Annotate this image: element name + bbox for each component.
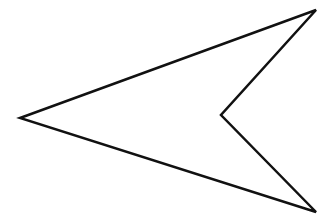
arrowhead-shape — [0, 0, 336, 218]
arrowhead-outline — [20, 10, 316, 212]
diagram-canvas — [0, 0, 336, 218]
